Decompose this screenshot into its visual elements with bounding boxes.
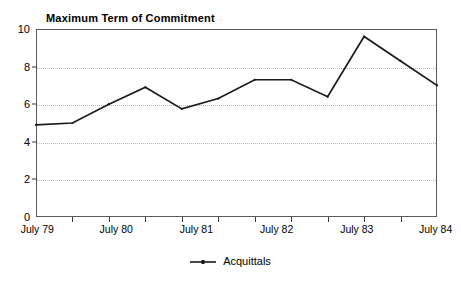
data-point — [35, 124, 37, 126]
chart-legend: Acquittals — [0, 256, 461, 267]
data-point — [108, 103, 110, 105]
x-tick-label-1: July 80 — [100, 224, 133, 235]
y-tick-label-10: 10 — [4, 24, 30, 35]
data-point — [254, 79, 256, 81]
x-tick-label-5: July 84 — [419, 224, 452, 235]
x-tick-mark-4 — [182, 217, 183, 222]
x-tick-label-4: July 83 — [340, 224, 373, 235]
data-point — [399, 60, 401, 62]
data-point — [71, 122, 73, 124]
y-tick-label-8: 8 — [4, 61, 30, 72]
chart-container: Maximum Term of Commitment 0246810 July … — [0, 0, 461, 289]
data-point — [217, 97, 219, 99]
data-point — [436, 84, 438, 86]
data-point — [363, 35, 365, 37]
x-tick-mark-7 — [291, 217, 292, 222]
y-tick-label-2: 2 — [4, 174, 30, 185]
chart-title: Maximum Term of Commitment — [46, 12, 215, 24]
data-point — [181, 108, 183, 110]
x-axis: July 79July 80July 81July 82July 83July … — [36, 217, 437, 247]
data-point — [327, 96, 329, 98]
legend-label-acquittals: Acquittals — [223, 256, 271, 267]
x-tick-mark-1 — [72, 217, 73, 222]
x-tick-mark-5 — [218, 217, 219, 222]
x-tick-mark-6 — [255, 217, 256, 222]
x-tick-mark-3 — [145, 217, 146, 222]
y-tick-label-4: 4 — [4, 136, 30, 147]
x-tick-mark-10 — [401, 217, 402, 222]
data-point — [144, 86, 146, 88]
y-tick-label-6: 6 — [4, 99, 30, 110]
x-tick-mark-9 — [364, 217, 365, 222]
x-tick-label-2: July 81 — [180, 224, 213, 235]
x-tick-mark-8 — [328, 217, 329, 222]
x-tick-label-0: July 79 — [21, 224, 54, 235]
data-point — [290, 79, 292, 81]
series-line-acquittals — [36, 37, 437, 125]
y-tick-label-0: 0 — [4, 212, 30, 223]
legend-marker-acquittals — [190, 257, 216, 267]
series-acquittals — [36, 29, 437, 217]
x-tick-mark-2 — [109, 217, 110, 222]
x-tick-label-3: July 82 — [260, 224, 293, 235]
